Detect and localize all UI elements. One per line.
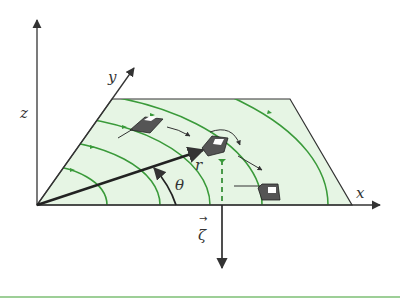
z-axis-label: z [19,104,28,122]
y-axis-label: y [107,68,117,86]
x-axis-label: x [356,184,365,202]
rotating-plane-diagram: z y x r θ ζ → [0,0,400,304]
zeta-vector-arrow: → [199,213,207,224]
zeta-label: ζ [198,226,207,244]
r-label: r [195,156,203,174]
theta-label: θ [175,176,184,194]
